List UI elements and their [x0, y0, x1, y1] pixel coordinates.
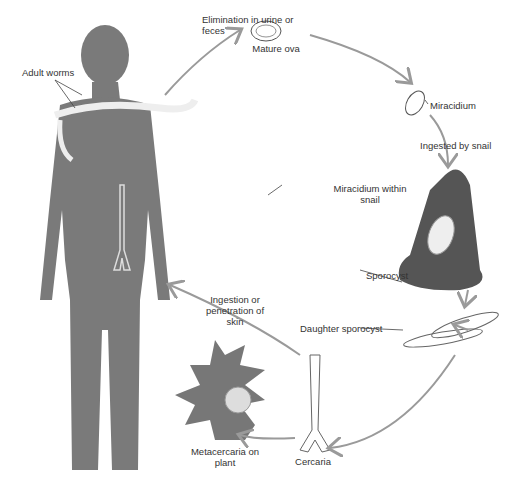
- miracidium-label: Miracidium: [430, 100, 476, 111]
- plant-icon: [175, 340, 265, 440]
- daughter-sporocyst-icon: [403, 325, 484, 351]
- daughter-sporocyst-label: Daughter sporocyst: [300, 323, 382, 334]
- ingested-label: Ingested by snail: [420, 140, 491, 151]
- elimination-label: Elimination in urine or feces: [202, 14, 302, 36]
- miracidium-icon: [402, 88, 429, 119]
- sporocyst-label: Sporocyst: [366, 270, 408, 281]
- mature-ova-label: Mature ova: [246, 43, 306, 54]
- sporocyst-icon: [430, 308, 501, 343]
- adult-worms-label: Adult worms: [22, 67, 74, 78]
- miracidium-snail-label: Miracidium within snail: [330, 183, 410, 205]
- metacercaria-label: Metacercaria on plant: [190, 446, 260, 468]
- life-cycle-diagram: [0, 0, 507, 488]
- human-silhouette: [40, 25, 170, 470]
- cercaria-icon: [300, 355, 330, 452]
- cercaria-label: Cercaria: [288, 456, 338, 467]
- ingestion-label: Ingestion or penetration of skin: [200, 294, 270, 327]
